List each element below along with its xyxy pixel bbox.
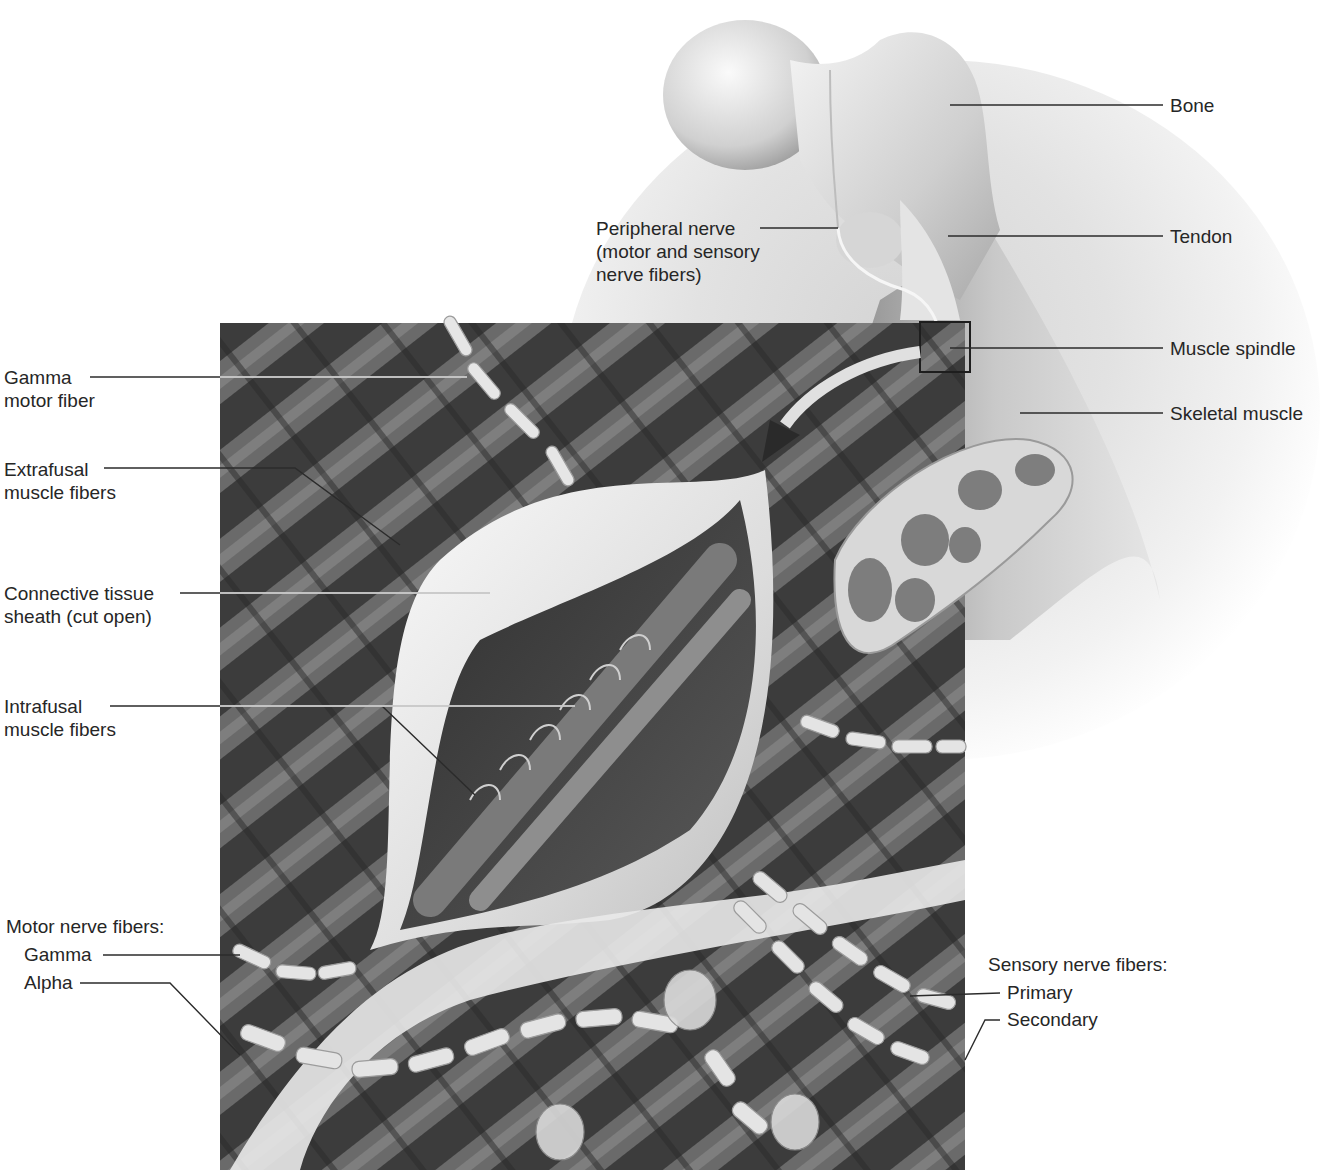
label-sensory-nerve-fibers-heading: Sensory nerve fibers:	[988, 953, 1168, 976]
illustration	[0, 0, 1322, 1170]
label-connective-tissue-sheath: Connective tissue sheath (cut open)	[4, 582, 154, 628]
label-peripheral-nerve: Peripheral nerve (motor and sensory nerv…	[596, 217, 760, 286]
muscle-spindle-figure: Bone Tendon Muscle spindle Skeletal musc…	[0, 0, 1322, 1170]
label-bone: Bone	[1170, 94, 1214, 117]
label-motor-nerve-fibers-heading: Motor nerve fibers:	[6, 915, 164, 938]
label-tendon: Tendon	[1170, 225, 1232, 248]
label-motor-alpha: Alpha	[24, 971, 73, 994]
label-extrafusal-muscle-fibers: Extrafusal muscle fibers	[4, 458, 116, 504]
label-sensory-primary: Primary	[1007, 981, 1072, 1004]
label-muscle-spindle: Muscle spindle	[1170, 337, 1296, 360]
label-intrafusal-muscle-fibers: Intrafusal muscle fibers	[4, 695, 116, 741]
label-skeletal-muscle: Skeletal muscle	[1170, 402, 1303, 425]
label-gamma-motor-fiber: Gamma motor fiber	[4, 366, 95, 412]
bone-shaft-shape	[790, 32, 1000, 300]
lesser-trochanter-shape	[836, 212, 904, 268]
label-motor-gamma: Gamma	[24, 943, 92, 966]
label-sensory-secondary: Secondary	[1007, 1008, 1098, 1031]
